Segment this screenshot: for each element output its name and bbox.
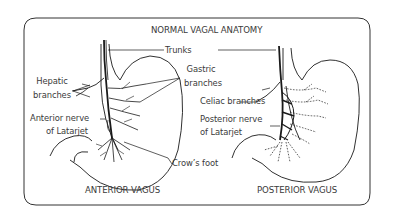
anterior-leader-lines	[73, 50, 180, 164]
posterior-dashed-branches	[264, 84, 328, 162]
label-celiac-branches: Celiac branches	[200, 96, 265, 107]
caption-posterior-vagus: POSTERIOR VAGUS	[257, 185, 337, 195]
label-hepatic-line2: branches	[30, 90, 74, 101]
label-crows-foot: Crow’s foot	[172, 158, 218, 169]
figure-frame	[24, 18, 370, 205]
label-trunks: Trunks	[165, 45, 192, 56]
label-gastric-line2: branches	[183, 78, 223, 89]
anterior-vagus-nerve	[72, 40, 146, 162]
figure-title: NORMAL VAGAL ANATOMY	[151, 25, 262, 35]
label-posterior-nerve-line2: of Latarjet	[200, 127, 242, 138]
caption-anterior-vagus: ANTERIOR VAGUS	[85, 185, 160, 195]
label-hepatic-line1: Hepatic	[32, 76, 72, 87]
label-anterior-nerve-line1: Anterior nerve	[30, 113, 89, 124]
label-gastric-line1: Gastric	[183, 64, 219, 75]
vagal-anatomy-figure: NORMAL VAGAL ANATOMY Trunks Gastric bran…	[0, 0, 393, 219]
label-anterior-nerve-line2: of Latarjet	[46, 126, 88, 137]
label-posterior-nerve-line1: Posterior nerve	[200, 114, 262, 125]
